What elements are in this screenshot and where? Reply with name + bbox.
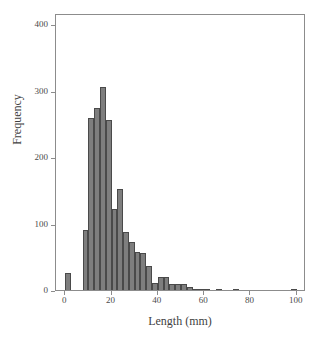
histogram-bar (291, 289, 297, 290)
x-axis-tick-label: 0 (49, 295, 79, 306)
x-axis-tick-label: 60 (188, 295, 218, 306)
histogram-bar (204, 289, 210, 290)
y-axis-tick-label: 400 (14, 20, 48, 29)
y-axis-tick (51, 92, 55, 93)
x-axis-tick-label: 100 (281, 295, 311, 306)
histogram-figure: 0204060801000100200300400 Length (mm) Fr… (0, 0, 320, 339)
y-axis-tick (51, 158, 55, 159)
x-axis-tick-label: 40 (142, 295, 172, 306)
histogram-bar (233, 289, 239, 290)
bars-layer (56, 15, 304, 290)
y-axis-tick-label: 0 (14, 286, 48, 295)
x-axis-tick-label: 20 (96, 295, 126, 306)
x-axis-label: Length (mm) (55, 314, 305, 329)
histogram-bar (65, 273, 71, 290)
y-axis-tick (51, 25, 55, 26)
histogram-bar (216, 289, 222, 290)
y-axis-tick (51, 291, 55, 292)
plot-frame (55, 14, 305, 291)
x-axis-tick-label: 80 (234, 295, 264, 306)
y-axis-tick (51, 225, 55, 226)
y-axis-label: Frequency (10, 65, 25, 175)
y-axis-tick-label: 100 (14, 220, 48, 229)
